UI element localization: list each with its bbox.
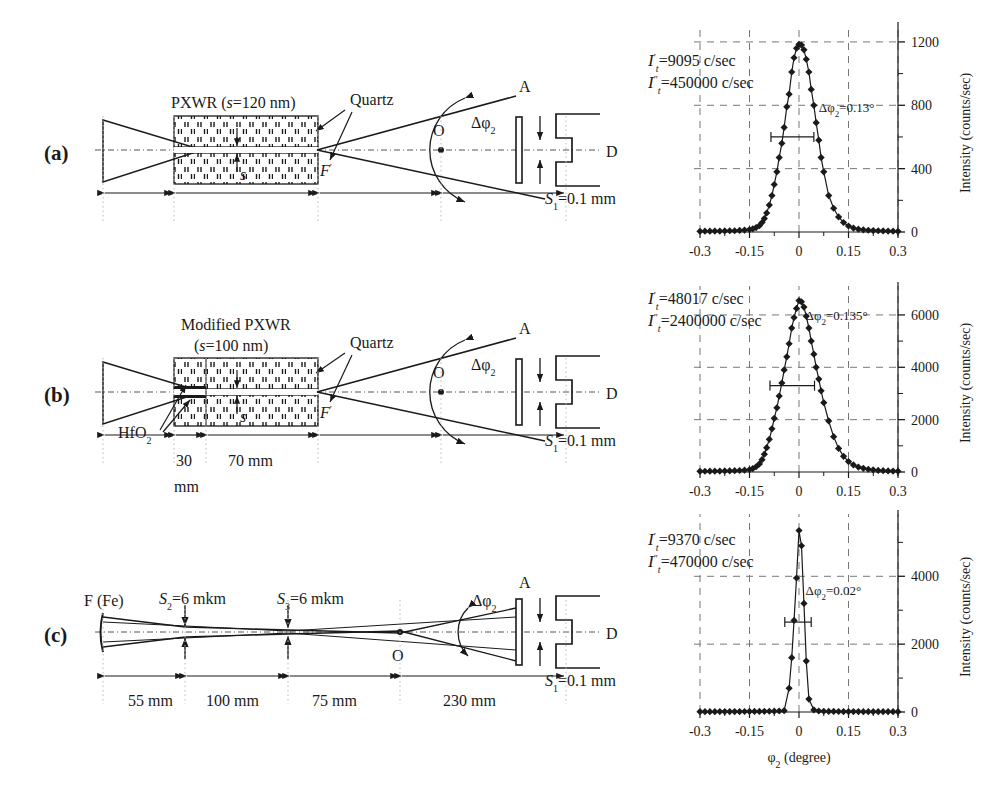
panel-label-c: (c)	[44, 623, 67, 647]
x-tick-label: -0.15	[735, 724, 764, 739]
x-tick-label: 0.15	[836, 724, 861, 739]
x-tick-label: 0.3	[889, 724, 907, 739]
panel-label-b: (b)	[44, 383, 70, 407]
point-label-A: A	[519, 574, 531, 591]
slit-bar-A	[516, 117, 522, 183]
device-title-pxwr: PXWR (s=120 nm)	[171, 94, 296, 112]
device-title-modified-pxwr: Modified PXWR	[181, 316, 291, 333]
y-tick-label: 1200	[911, 35, 939, 50]
quartz-block-upper	[174, 358, 318, 389]
dimension-30: 30	[176, 452, 192, 469]
point-label-A: A	[519, 320, 531, 337]
y-tick-label: 6000	[911, 308, 939, 323]
point-label-O: O	[433, 122, 445, 139]
figure-root: (a)sPXWR (s=120 nm)QuartzAF′OΔφ2DS1=0.1 …	[0, 0, 998, 792]
waveguide-gap	[174, 389, 318, 395]
y-tick-label: 0	[911, 225, 918, 240]
y-axis-title: Intensity (counts/sec)	[958, 323, 974, 443]
figure-background	[0, 0, 998, 792]
x-tick-label: 0	[796, 724, 803, 739]
source-label-F-Fe: F (Fe)	[84, 592, 124, 610]
x-tick-label: 0.3	[889, 484, 907, 499]
x-tick-label: 0	[796, 244, 803, 259]
quartz-label: Quartz	[350, 334, 394, 351]
quartz-label: Quartz	[350, 91, 394, 108]
panel-label-a: (a)	[44, 141, 69, 165]
y-tick-label: 2000	[911, 637, 939, 652]
x-tick-label: 0	[796, 484, 803, 499]
point-label-O: O	[433, 364, 445, 381]
point-label-A: A	[519, 78, 531, 95]
detector-label-D: D	[606, 143, 618, 160]
hfo2-layer-upper	[174, 386, 206, 389]
x-tick-label: -0.15	[735, 484, 764, 499]
gap-symbol-s: s	[240, 408, 246, 425]
detector-label-D: D	[606, 625, 618, 642]
y-axis-title: Intensity (counts/sec)	[958, 557, 974, 677]
x-tick-label: -0.3	[689, 484, 711, 499]
point-label-O: O	[392, 647, 404, 664]
x-tick-label: 0.15	[836, 484, 861, 499]
y-tick-label: 0	[911, 465, 918, 480]
y-tick-label: 4000	[911, 360, 939, 375]
waveguide-gap	[174, 147, 318, 153]
detector-label-D: D	[606, 385, 618, 402]
x-tick-label: -0.15	[735, 244, 764, 259]
x-tick-label: -0.3	[689, 724, 711, 739]
y-tick-label: 4000	[911, 569, 939, 584]
dimension-4: 230 mm	[443, 692, 496, 709]
quartz-block-upper	[174, 116, 318, 147]
dimension-2: 100 mm	[206, 692, 259, 709]
gap-symbol-s: s	[240, 166, 246, 183]
dimension-3: 75 mm	[312, 692, 357, 709]
x-tick-label: -0.3	[689, 244, 711, 259]
y-tick-label: 800	[911, 98, 932, 113]
x-tick-label: 0.15	[836, 244, 861, 259]
device-gap-label: (s=100 nm)	[194, 337, 268, 355]
y-axis-title: Intensity (counts/sec)	[958, 73, 974, 193]
figure-svg: (a)sPXWR (s=120 nm)QuartzAF′OΔφ2DS1=0.1 …	[0, 0, 998, 792]
dimension-1: 55 mm	[128, 692, 173, 709]
y-tick-label: 400	[911, 162, 932, 177]
dimension-30-unit: mm	[174, 478, 199, 495]
y-tick-label: 2000	[911, 413, 939, 428]
x-tick-label: 0.3	[889, 244, 907, 259]
slit-bar-A	[516, 599, 522, 665]
slit-bar-A	[516, 359, 522, 425]
dimension-70mm: 70 mm	[228, 452, 273, 469]
y-tick-label: 0	[911, 705, 918, 720]
